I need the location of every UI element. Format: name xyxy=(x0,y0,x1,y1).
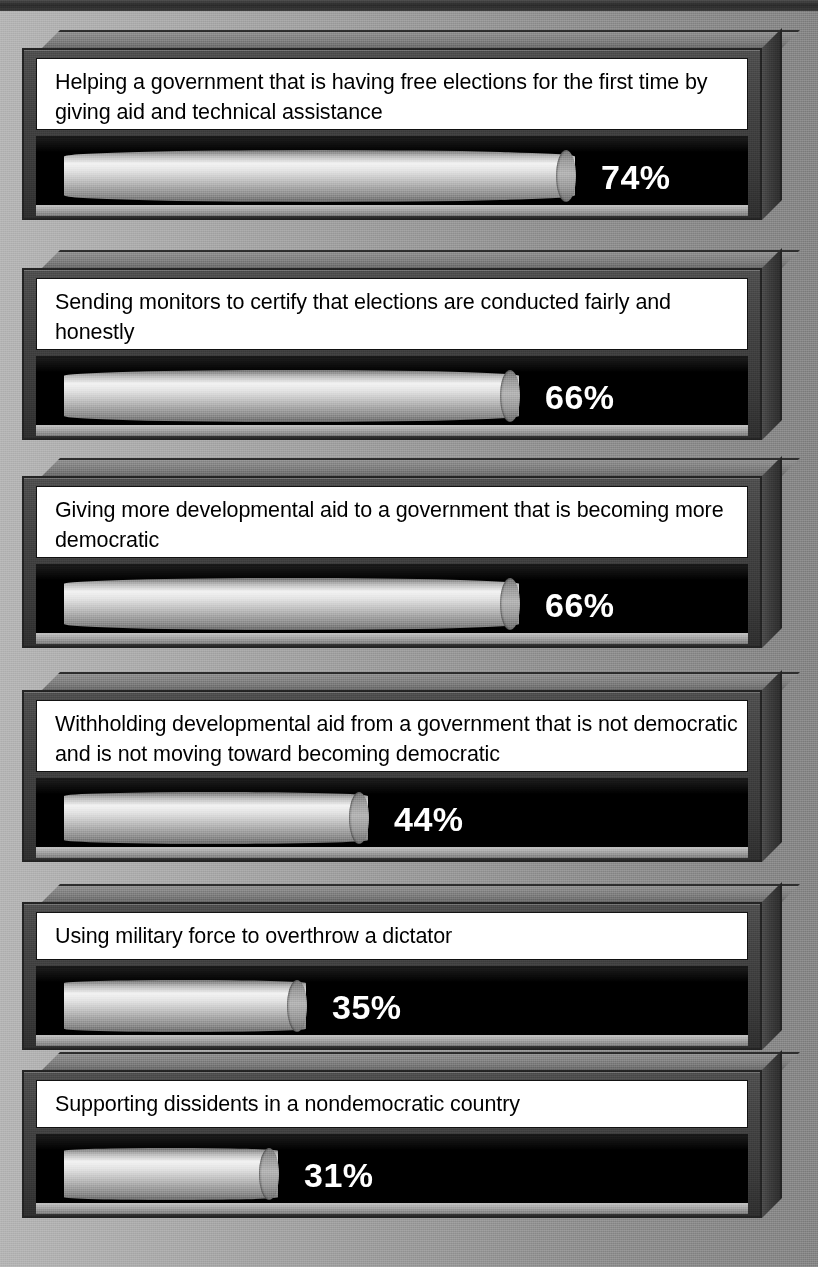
panel-caption: Supporting dissidents in a nondemocratic… xyxy=(36,1080,748,1128)
panel-right-bevel xyxy=(762,456,782,648)
value-label: 44% xyxy=(394,802,464,836)
measure-panel: Helping a government that is having free… xyxy=(22,30,762,220)
bar-track: 74% xyxy=(36,136,748,216)
bar-track: 66% xyxy=(36,564,748,644)
panel-caption: Sending monitors to certify that electio… xyxy=(36,278,748,350)
value-label: 35% xyxy=(332,990,402,1024)
measure-panel: Using military force to overthrow a dict… xyxy=(22,884,762,1050)
value-label: 74% xyxy=(601,160,671,194)
value-bar-end-cap xyxy=(349,792,369,844)
bar-track-ledge xyxy=(36,847,748,858)
measure-panel: Supporting dissidents in a nondemocratic… xyxy=(22,1052,762,1218)
panel-top-bevel xyxy=(40,30,800,50)
panel-caption: Helping a government that is having free… xyxy=(36,58,748,130)
measure-panel: Withholding developmental aid from a gov… xyxy=(22,672,762,862)
panel-top-bevel xyxy=(40,672,800,692)
measure-panel: Sending monitors to certify that electio… xyxy=(22,250,762,440)
panel-right-bevel xyxy=(762,248,782,440)
value-label: 66% xyxy=(545,380,615,414)
top-rule xyxy=(0,0,818,11)
bar-track: 66% xyxy=(36,356,748,436)
bar-track-ledge xyxy=(36,633,748,644)
panel-right-bevel xyxy=(762,882,782,1050)
bar-track-ledge xyxy=(36,205,748,216)
value-bar xyxy=(64,578,519,630)
value-label: 66% xyxy=(545,588,615,622)
bar-track-ledge xyxy=(36,425,748,436)
panel-top-bevel xyxy=(40,458,800,478)
value-bar xyxy=(64,370,519,422)
panel-right-bevel xyxy=(762,28,782,220)
panel-top-bevel xyxy=(40,884,800,904)
panel-right-bevel xyxy=(762,670,782,862)
poster-canvas: Helping a government that is having free… xyxy=(0,0,818,1267)
value-bar-end-cap xyxy=(287,980,307,1032)
value-bar-end-cap xyxy=(500,578,520,630)
bar-track-ledge xyxy=(36,1035,748,1046)
bar-track: 31% xyxy=(36,1134,748,1214)
measure-panel: Giving more developmental aid to a gover… xyxy=(22,458,762,648)
value-bar-end-cap xyxy=(259,1148,279,1200)
value-bar-end-cap xyxy=(556,150,576,202)
panel-caption: Withholding developmental aid from a gov… xyxy=(36,700,748,772)
panel-top-bevel xyxy=(40,250,800,270)
bar-track-ledge xyxy=(36,1203,748,1214)
panel-right-bevel xyxy=(762,1050,782,1218)
panel-caption: Using military force to overthrow a dict… xyxy=(36,912,748,960)
value-label: 31% xyxy=(304,1158,374,1192)
value-bar xyxy=(64,1148,278,1200)
bar-track: 35% xyxy=(36,966,748,1046)
value-bar xyxy=(64,150,575,202)
value-bar xyxy=(64,980,306,1032)
value-bar-end-cap xyxy=(500,370,520,422)
value-bar xyxy=(64,792,368,844)
panel-top-bevel xyxy=(40,1052,800,1072)
bar-track: 44% xyxy=(36,778,748,858)
panel-caption: Giving more developmental aid to a gover… xyxy=(36,486,748,558)
